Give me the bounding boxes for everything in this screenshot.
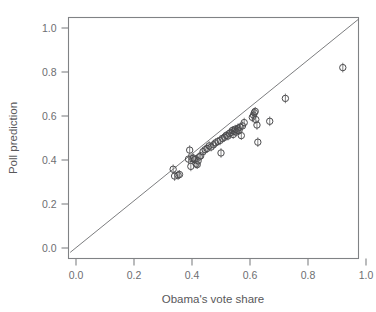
data-point: [255, 137, 261, 147]
data-point: [218, 148, 224, 158]
data-point: [340, 63, 346, 73]
identity-line: [70, 19, 358, 252]
y-tick-label: 1.0: [42, 22, 57, 34]
x-tick-label: 0.6: [243, 269, 258, 281]
plot-frame: [69, 18, 359, 259]
plot-canvas: 0.00.20.40.60.81.0 0.00.20.40.60.81.0 Ob…: [0, 0, 376, 312]
data-point: [267, 116, 273, 126]
y-axis-title: Poll prediction: [7, 102, 19, 174]
data-point: [282, 94, 288, 104]
y-tick-label: 0.8: [42, 66, 57, 78]
y-axis-tick-labels: 0.00.20.40.60.81.0: [42, 22, 57, 254]
x-axis-tick-marks: [76, 259, 366, 266]
y-tick-label: 0.4: [42, 154, 57, 166]
x-tick-label: 0.8: [301, 269, 316, 281]
x-tick-label: 0.2: [127, 269, 142, 281]
y-tick-label: 0.2: [42, 198, 57, 210]
x-tick-label: 0.0: [69, 269, 84, 281]
y-tick-label: 0.6: [42, 110, 57, 122]
data-point: [254, 120, 260, 130]
data-point-series: [170, 63, 346, 181]
y-axis-tick-marks: [62, 28, 69, 248]
y-tick-label: 0.0: [42, 242, 57, 254]
x-axis-title: Obama's vote share: [162, 293, 265, 305]
x-tick-label: 0.4: [185, 269, 200, 281]
identity-reference-line: [70, 19, 358, 252]
x-tick-label: 1.0: [359, 269, 374, 281]
x-axis-tick-labels: 0.00.20.40.60.81.0: [69, 269, 374, 281]
scatter-plot-figure: 0.00.20.40.60.81.0 0.00.20.40.60.81.0 Ob…: [0, 0, 376, 312]
